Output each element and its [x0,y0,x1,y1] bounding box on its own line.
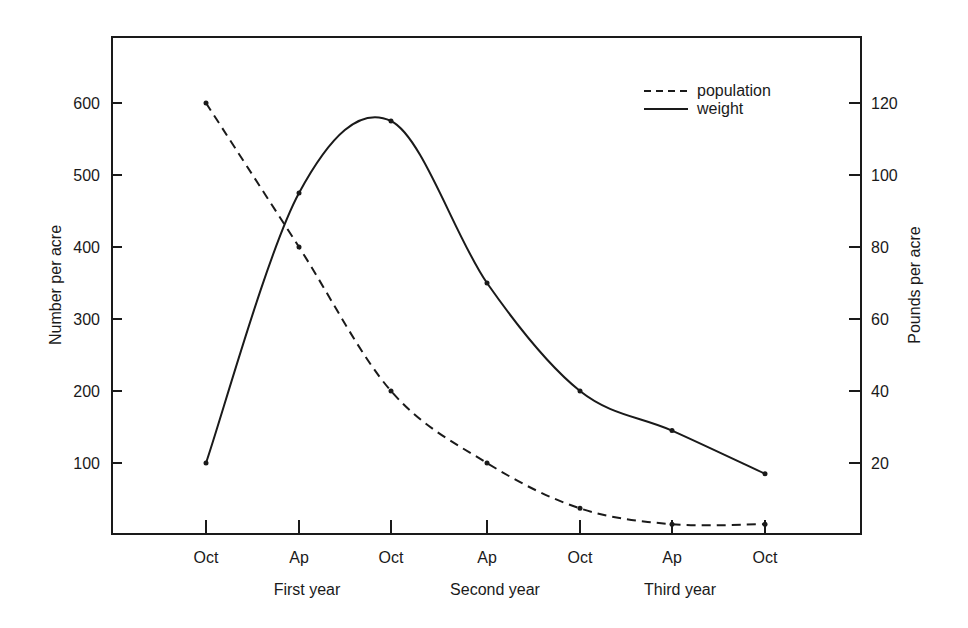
right-tick-label: 40 [871,383,889,400]
weight-point [763,471,768,476]
x-tick-label: Oct [379,549,404,566]
plot-frame [112,37,861,534]
left-axis-title: Number per acre [47,225,64,345]
population-point [485,461,490,466]
right-tick-label: 80 [871,239,889,256]
population-point [763,522,768,527]
legend: population weight [644,82,771,117]
weight-point [485,281,490,286]
chart: 100200300400500600 20406080100120 OctApO… [0,0,968,628]
population-point [670,522,675,527]
population-point [204,101,209,106]
year-label: First year [274,581,341,598]
right-tick-label: 60 [871,311,889,328]
x-axis: OctApOctApOctApOct [194,520,778,566]
weight-line [206,117,765,474]
right-tick-label: 20 [871,455,889,472]
x-tick-label: Ap [477,549,497,566]
weight-point [389,119,394,124]
right-tick-label: 100 [871,167,898,184]
right-y-axis: 20406080100120 [849,95,898,472]
left-tick-label: 100 [73,455,100,472]
legend-label-population: population [697,82,771,99]
x-tick-label: Ap [662,549,682,566]
left-tick-label: 600 [73,95,100,112]
year-label: Second year [450,581,541,598]
left-tick-label: 300 [73,311,100,328]
legend-label-weight: weight [696,100,744,117]
population-point [389,389,394,394]
left-tick-label: 500 [73,167,100,184]
left-tick-label: 200 [73,383,100,400]
x-tick-label: Oct [568,549,593,566]
weight-point [297,191,302,196]
x-tick-label: Oct [753,549,778,566]
right-axis-title: Pounds per acre [906,226,923,344]
x-tick-label: Ap [289,549,309,566]
x-tick-label: Oct [194,549,219,566]
left-y-axis: 100200300400500600 [73,95,122,472]
series-layer [204,101,768,527]
weight-point [578,389,583,394]
population-point [578,506,583,511]
weight-point [204,461,209,466]
year-group-labels: First yearSecond yearThird year [274,581,717,598]
year-label: Third year [644,581,717,598]
right-tick-label: 120 [871,95,898,112]
left-tick-label: 400 [73,239,100,256]
weight-point [670,428,675,433]
population-point [297,245,302,250]
